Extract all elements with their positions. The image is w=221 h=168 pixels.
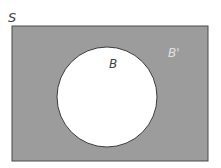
set-b-label: B xyxy=(109,57,117,71)
complement-label: B' xyxy=(168,46,180,60)
set-b-circle xyxy=(57,47,157,147)
venn-diagram: S B B' xyxy=(0,0,221,168)
universe-label: S xyxy=(8,10,16,25)
